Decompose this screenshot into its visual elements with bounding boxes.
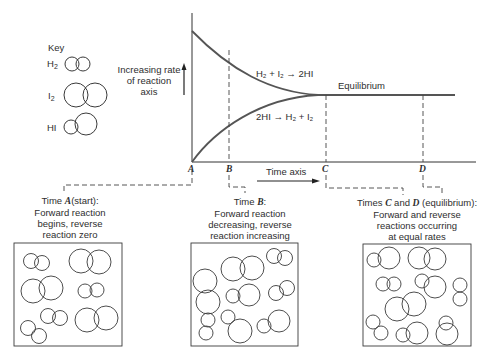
key-label-h2-text: H xyxy=(47,58,54,69)
y-axis-label: Increasing rate of reaction axis xyxy=(117,64,181,97)
y-axis-label-line: of reaction xyxy=(117,75,181,86)
key-label-i2-sub: 2 xyxy=(51,95,55,102)
annotation-time-cd: Times C and D (equilibrium): Forward and… xyxy=(352,197,482,242)
y-axis-label-line: Increasing rate xyxy=(117,64,181,75)
time-marker-b: B xyxy=(226,164,232,175)
key-hi-molecule-icon xyxy=(64,113,97,135)
time-d-bracket xyxy=(423,175,442,195)
title-prefix: Times xyxy=(357,197,385,208)
time-c-bracket xyxy=(326,175,403,195)
time-marker-d: D xyxy=(419,164,426,175)
time-a-bracket xyxy=(64,170,192,192)
annotation-line: Forward reaction xyxy=(20,207,120,218)
forward-rate-curve xyxy=(192,31,455,95)
molecule-box-time-cd xyxy=(363,244,471,346)
reverse-reaction-label: 2HI → H₂ + I₂ xyxy=(256,111,313,122)
time-marker-a: A xyxy=(188,164,194,175)
title-suffix: : xyxy=(264,196,267,207)
y-axis-arrow-icon xyxy=(182,63,187,95)
title-suffix: (start): xyxy=(71,195,98,206)
x-axis-label: Time axis xyxy=(266,166,306,177)
annotation-time-b: Time B: Forward reaction decreasing, rev… xyxy=(196,196,304,241)
annotation-line: decreasing, reverse xyxy=(196,219,304,230)
y-axis-label-line: axis xyxy=(117,86,181,97)
title-prefix: Time xyxy=(41,195,64,206)
time-axis-arrow-icon xyxy=(257,179,320,184)
reverse-rate-curve xyxy=(192,95,318,162)
annotation-time-b-title: Time B: xyxy=(196,196,304,208)
key-title: Key xyxy=(48,42,64,53)
annotation-line: begins, reverse xyxy=(20,218,120,229)
equilibrium-label: Equilibrium xyxy=(338,80,385,91)
key-i2-molecule-icon xyxy=(64,83,107,107)
title-suffix: (equilibrium): xyxy=(419,197,477,208)
annotation-line: reaction increasing xyxy=(196,230,304,241)
forward-reaction-label: H₂ + I₂ → 2HI xyxy=(256,68,313,79)
key-label-hi: HI xyxy=(47,122,57,133)
annotation-time-a-title: Time A(start): xyxy=(20,195,120,207)
title-mid: and xyxy=(391,197,412,208)
time-b-bracket xyxy=(229,175,245,193)
key-label-h2: H2 xyxy=(47,58,58,69)
annotation-time-a: Time A(start): Forward reaction begins, … xyxy=(20,195,120,240)
title-prefix: Time xyxy=(234,196,257,207)
diagram-canvas xyxy=(0,0,499,360)
time-marker-c: C xyxy=(322,164,328,175)
annotation-line: reactions occurring xyxy=(352,220,482,231)
annotation-line: Forward and reverse xyxy=(352,209,482,220)
key-h2-molecule-icon xyxy=(65,57,90,71)
annotation-line: reaction zero xyxy=(20,229,120,240)
annotation-line: at equal rates xyxy=(352,231,482,242)
key-label-i2: I2 xyxy=(48,90,55,101)
annotation-line: Forward reaction xyxy=(196,208,304,219)
annotation-time-cd-title: Times C and D (equilibrium): xyxy=(352,197,482,209)
molecule-box-time-b xyxy=(191,243,298,346)
key-label-h2-sub: 2 xyxy=(54,63,58,70)
molecule-box-time-a xyxy=(14,243,122,346)
